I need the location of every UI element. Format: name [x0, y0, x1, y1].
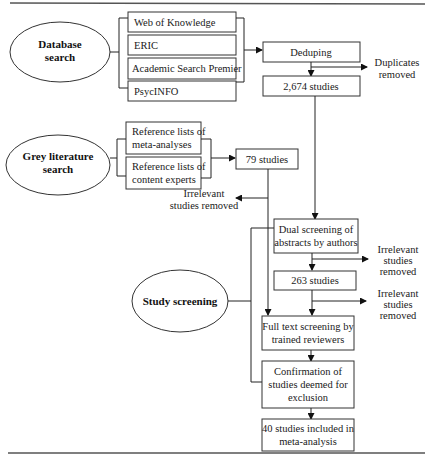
grey-bracket [117, 139, 126, 176]
grey-literature-label-2: search [43, 163, 73, 175]
db-label: Web of Knowledge [134, 17, 216, 28]
irrelevant-2-label-3: removed [380, 310, 417, 321]
database-bracket [119, 18, 128, 88]
confirmation-label-3: exclusion [288, 392, 329, 403]
irrelevant-2-label: Irrelevant [378, 288, 419, 299]
grey-label: Reference lists of [132, 161, 206, 172]
final-label-2: meta-analysis [279, 436, 337, 447]
count-263-label: 263 studies [291, 275, 339, 286]
top-rule [10, 3, 425, 4]
full-text-label: Full text screening by [262, 321, 354, 332]
grey-label: Reference lists of [132, 126, 206, 137]
irrelevant-2-label-2: studies [383, 299, 412, 310]
full-text-label-2: trained reviewers [272, 334, 345, 345]
count-2674-label: 2,674 studies [283, 81, 338, 92]
db-label: ERIC [134, 40, 158, 51]
grey-irrelevant-label-2: studies removed [170, 200, 239, 211]
count-79-label: 79 studies [246, 154, 288, 165]
database-search-label: Database [38, 38, 82, 50]
grey-literature-label: Grey literature [23, 150, 94, 162]
db-label: Academic Search Premier [132, 63, 242, 74]
confirmation-label: Confirmation of [274, 366, 342, 377]
dual-screening-label: Dual screening of [279, 224, 354, 235]
irrelevant-1-label-3: removed [380, 266, 417, 277]
duplicates-removed-label-2: removed [379, 69, 416, 80]
confirmation-label-2: studies deemed for [268, 379, 348, 390]
grey-label-2: meta-analyses [132, 139, 191, 150]
flowchart: Database search Web of Knowledge ERIC Ac… [0, 0, 428, 460]
irrelevant-1-label-2: studies [383, 255, 412, 266]
deduping-label: Deduping [290, 47, 332, 58]
database-search-label-2: search [45, 51, 75, 63]
grey-label-2: content experts [132, 174, 196, 185]
db-label: PsycINFO [134, 86, 179, 97]
final-label: 40 studies included in [262, 423, 355, 434]
duplicates-removed-label: Duplicates [375, 57, 420, 68]
dual-screening-label-2: abstracts by authors [274, 237, 357, 248]
irrelevant-1-label: Irrelevant [378, 244, 419, 255]
grey-bracket-right [201, 139, 211, 178]
grey-irrelevant-label: Irrelevant [184, 188, 225, 199]
study-screening-label: Study screening [143, 295, 218, 307]
screening-bracket [251, 228, 274, 382]
